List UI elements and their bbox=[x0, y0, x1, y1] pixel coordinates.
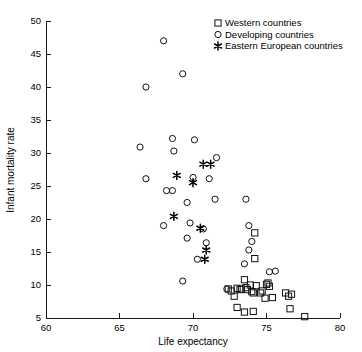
data-point-circle bbox=[266, 269, 272, 275]
data-point-circle bbox=[184, 235, 190, 241]
x-axis-title: Life expectancy bbox=[158, 336, 228, 347]
axis-ticks bbox=[46, 21, 340, 318]
data-point-circle bbox=[241, 261, 247, 267]
data-point-circle bbox=[206, 176, 212, 182]
y-tick-label: 45 bbox=[30, 48, 41, 59]
data-point-star bbox=[173, 171, 180, 179]
data-point-circle bbox=[212, 196, 218, 202]
y-tick-label: 15 bbox=[30, 246, 41, 257]
x-tick-label: 75 bbox=[261, 322, 272, 333]
legend-circle-icon bbox=[215, 31, 221, 37]
data-point-star bbox=[200, 160, 207, 168]
data-point-circle bbox=[249, 238, 255, 244]
data-point-circle bbox=[169, 188, 175, 194]
data-point-square bbox=[234, 304, 240, 310]
legend-label: Western countries bbox=[225, 17, 302, 28]
y-tick-label: 35 bbox=[30, 114, 41, 125]
x-tick-label: 70 bbox=[188, 322, 199, 333]
data-point-square bbox=[252, 230, 258, 236]
data-point-circle bbox=[191, 137, 197, 143]
axes bbox=[46, 21, 340, 318]
data-point-circle bbox=[246, 247, 252, 253]
y-axis-title: Infant mortality rate bbox=[5, 127, 16, 213]
data-point-square bbox=[287, 306, 293, 312]
data-point-circle bbox=[163, 188, 169, 194]
legend-label: Developing countries bbox=[225, 29, 314, 40]
data-point-star bbox=[203, 246, 210, 254]
series-square bbox=[225, 230, 308, 320]
data-point-circle bbox=[161, 38, 167, 44]
x-tick-label: 80 bbox=[335, 322, 346, 333]
legend-label: Eastern European countries bbox=[225, 40, 343, 51]
legend-square-icon bbox=[215, 20, 221, 26]
scatter-plot-figure: 51015202530354045506065707580 Western co… bbox=[0, 0, 362, 352]
data-point-circle bbox=[243, 196, 249, 202]
data-point-circle bbox=[169, 135, 175, 141]
data-point-square bbox=[259, 288, 265, 294]
data-point-circle bbox=[187, 220, 193, 226]
data-point-square bbox=[241, 277, 247, 283]
legend-star-icon bbox=[215, 42, 222, 50]
data-point-circle bbox=[184, 199, 190, 205]
data-point-circle bbox=[194, 256, 200, 262]
data-point-circle bbox=[213, 155, 219, 161]
data-point-square bbox=[252, 256, 258, 262]
data-point-star bbox=[170, 212, 177, 220]
data-point-circle bbox=[203, 240, 209, 246]
data-point-square bbox=[250, 308, 256, 314]
x-tick-label: 65 bbox=[114, 322, 125, 333]
data-point-circle bbox=[171, 148, 177, 154]
data-point-square bbox=[253, 283, 259, 289]
data-point-circle bbox=[180, 71, 186, 77]
y-tick-label: 25 bbox=[30, 180, 41, 191]
data-point-circle bbox=[137, 144, 143, 150]
x-tick-label: 60 bbox=[41, 322, 52, 333]
data-point-circle bbox=[143, 176, 149, 182]
series-circle bbox=[137, 38, 278, 292]
plot-canvas: 51015202530354045506065707580 Western co… bbox=[0, 0, 362, 352]
data-point-square bbox=[302, 314, 308, 320]
y-tick-label: 30 bbox=[30, 147, 41, 158]
y-tick-label: 40 bbox=[30, 81, 41, 92]
y-tick-label: 10 bbox=[30, 279, 41, 290]
data-point-star bbox=[201, 255, 208, 263]
data-points bbox=[137, 38, 308, 320]
data-point-star bbox=[207, 160, 214, 168]
axis-tick-labels: 51015202530354045506065707580 bbox=[30, 15, 345, 333]
chart-legend: Western countriesDeveloping countriesEas… bbox=[215, 17, 343, 51]
data-point-circle bbox=[224, 286, 230, 292]
data-point-circle bbox=[246, 223, 252, 229]
data-point-circle bbox=[272, 268, 278, 274]
data-point-circle bbox=[180, 278, 186, 284]
data-point-square bbox=[269, 294, 275, 300]
data-point-circle bbox=[143, 84, 149, 90]
y-tick-label: 50 bbox=[30, 15, 41, 26]
data-point-square bbox=[241, 309, 247, 315]
data-point-circle bbox=[161, 223, 167, 229]
y-tick-label: 20 bbox=[30, 213, 41, 224]
